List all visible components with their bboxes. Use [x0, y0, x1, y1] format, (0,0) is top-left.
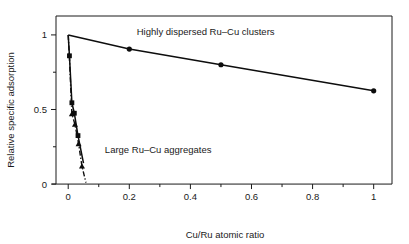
x-tick-label: 0.2: [123, 191, 136, 202]
y-tick-label: 0.5: [34, 104, 47, 115]
x-axis-label: Cu/Ru atomic ratio: [186, 229, 265, 240]
lower-curve-label: Large Ru–Cu aggregates: [105, 144, 212, 155]
x-tick-label: 0: [66, 191, 71, 202]
data-point-marker: [76, 133, 81, 138]
chart-figure: 00.20.40.60.81 00.51 Highly dispersed Ru…: [0, 0, 409, 244]
data-point-marker: [218, 62, 223, 67]
x-tick-label: 1: [371, 191, 376, 202]
x-tick-label: 0.4: [184, 191, 197, 202]
x-tick-label: 0.6: [245, 191, 258, 202]
upper-curve-label: Highly dispersed Ru–Cu clusters: [137, 26, 275, 37]
x-tick-label: 0.8: [306, 191, 319, 202]
y-axis-label: Relative specific adsorption: [5, 52, 16, 168]
data-point-marker: [67, 53, 72, 58]
data-point-marker: [69, 100, 74, 105]
data-point-marker: [127, 46, 132, 51]
data-point-marker: [371, 88, 376, 93]
adsorption-line-chart: 00.20.40.60.81 00.51 Highly dispersed Ru…: [0, 0, 409, 244]
y-tick-label: 1: [42, 29, 47, 40]
y-tick-label: 0: [42, 179, 47, 190]
